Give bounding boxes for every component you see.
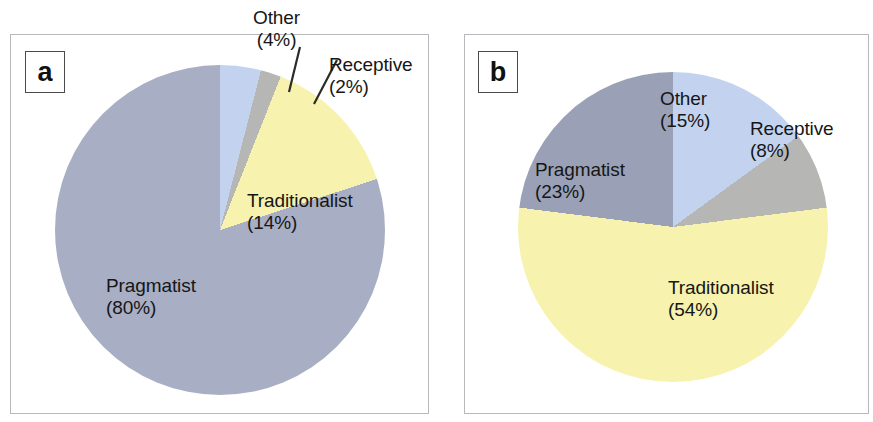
panel-b-letter: b: [490, 59, 507, 86]
label-a-pragmatist-value: (80%): [106, 297, 196, 319]
label-b-receptive: Receptive (8%): [750, 118, 834, 162]
label-b-traditionalist: Traditionalist (54%): [668, 277, 774, 321]
label-b-receptive-value: (8%): [750, 140, 834, 162]
label-a-other-name: Other: [253, 7, 300, 29]
label-a-receptive: Receptive (2%): [329, 54, 413, 98]
label-b-pragmatist: Pragmatist (23%): [535, 159, 625, 203]
label-b-other-value: (15%): [660, 110, 710, 132]
label-b-other: Other (15%): [660, 88, 710, 132]
label-a-other: Other (4%): [253, 7, 300, 51]
leader-line-a-other: [289, 47, 300, 92]
label-a-other-value: (4%): [253, 29, 300, 51]
panel-a-letter: a: [37, 59, 52, 86]
label-b-traditionalist-value: (54%): [668, 299, 774, 321]
figure-root: a Other (4%) Receptive (2%) Traditionali…: [0, 0, 873, 422]
label-b-other-name: Other: [660, 88, 710, 110]
label-a-traditionalist-name: Traditionalist: [247, 190, 353, 212]
label-a-traditionalist: Traditionalist (14%): [247, 190, 353, 234]
label-a-pragmatist: Pragmatist (80%): [106, 275, 196, 319]
label-a-receptive-value: (2%): [329, 76, 413, 98]
label-b-pragmatist-name: Pragmatist: [535, 159, 625, 181]
label-b-traditionalist-name: Traditionalist: [668, 277, 774, 299]
label-a-pragmatist-name: Pragmatist: [106, 275, 196, 297]
panel-b-letter-box: b: [478, 51, 518, 93]
label-a-receptive-name: Receptive: [329, 54, 413, 76]
label-a-traditionalist-value: (14%): [247, 212, 353, 234]
label-b-pragmatist-value: (23%): [535, 181, 625, 203]
label-b-receptive-name: Receptive: [750, 118, 834, 140]
panel-a-letter-box: a: [25, 51, 65, 93]
